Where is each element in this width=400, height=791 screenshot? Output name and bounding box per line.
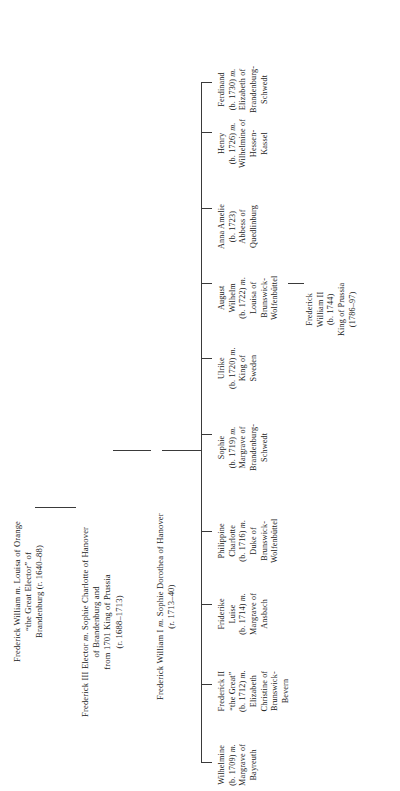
node-line: Margrave of <box>249 593 260 635</box>
node-line: Henry <box>217 119 228 168</box>
node-line: Friderike <box>217 593 228 635</box>
node-line: (b. 1709) m. <box>228 744 239 786</box>
branch-tick-ferdinand <box>201 82 212 83</box>
node-line: Louisa of <box>249 276 260 320</box>
branch-tick-august-wilhelm <box>201 283 212 284</box>
connector-august-wilhelm-child <box>288 283 304 284</box>
node-line: Frederick II <box>217 670 228 712</box>
node-line: Margrave of <box>238 744 249 786</box>
node-ulrike: Ulrike(b. 1720) m.King ofSweden <box>217 347 260 389</box>
node-line: Brunswick- <box>260 276 271 320</box>
node-line: (r. 1688–1713) <box>114 527 125 717</box>
branch-tick-henry <box>201 132 212 133</box>
node-line: Wilhelmine <box>217 744 228 786</box>
node-frederick-william-i: Frederick William I m. Sophie Dorothea o… <box>155 513 177 700</box>
sibling-bus <box>201 82 202 762</box>
branch-tick-wilhelmine <box>201 762 212 763</box>
branch-tick-frederick-ii <box>201 684 212 685</box>
genealogy-chart: Frederick William m. Louisa of Orange“th… <box>0 0 400 791</box>
node-line: Brandenburg- <box>249 66 260 113</box>
node-line: Sweden <box>249 347 260 389</box>
node-line: (b. 1726) m. <box>228 119 239 168</box>
node-line: August <box>217 276 228 320</box>
node-line: Frederick William I m. Sophie Dorothea o… <box>155 513 166 700</box>
node-line: William II <box>316 283 327 336</box>
node-line: (b. 1719) m. <box>228 424 239 471</box>
node-henry: Henry(b. 1726) m.Wilhelmine ofHessen-Kas… <box>217 119 270 168</box>
node-wilhelmine: Wilhelmine(b. 1709) m.Margrave ofBayreut… <box>217 744 260 786</box>
node-line: of Brandenburg and <box>91 527 102 717</box>
node-ferdinand: Ferdinand(b. 1730) m.Elizabeth ofBranden… <box>217 66 270 113</box>
node-line: (b. 1723) <box>228 204 239 249</box>
branch-tick-ulrike <box>201 358 212 359</box>
connector-gen3-bus <box>162 450 202 451</box>
node-line: (r. 1713–40) <box>166 513 177 700</box>
node-line: (b. 1722) m. <box>238 276 249 320</box>
node-line: “the Great” <box>228 670 239 712</box>
node-line: Hessen- <box>249 119 260 168</box>
node-line: Christine of <box>260 670 271 712</box>
node-anna-amelie: Anna Amelie(b. 1723)Abbess ofQuedlinburg <box>217 204 260 249</box>
node-line: Sophie <box>217 424 228 471</box>
node-line: Brunswick- <box>270 670 281 712</box>
node-frederick-william-great-elector: Frederick William m. Louisa of Orange“th… <box>12 521 46 662</box>
node-line: Schwedt <box>260 66 271 113</box>
node-line: Bayreuth <box>249 744 260 786</box>
node-august-wilhelm: AugustWilhelm(b. 1722) m.Louisa ofBrunsw… <box>217 276 281 320</box>
node-line: Charlotte <box>228 519 239 563</box>
node-line: Wolfenbüttel <box>270 276 281 320</box>
node-line: Duke of <box>249 519 260 563</box>
branch-tick-friderike-luise <box>201 604 212 605</box>
node-line: Margrave of <box>238 424 249 471</box>
node-line: Brandenburg (r. 1640–88) <box>34 521 45 662</box>
node-frederick-ii: Frederick II“the Great”(b. 1712) m.Eliza… <box>217 670 292 712</box>
node-line: Luise <box>228 593 239 635</box>
node-line: (1786–97) <box>348 283 359 336</box>
node-line: Elizabeth <box>249 670 260 712</box>
node-line: (b. 1714) m. <box>238 593 249 635</box>
node-line: Ulrike <box>217 347 228 389</box>
branch-tick-philippine-charlotte <box>201 531 212 532</box>
branch-tick-sophie <box>201 434 212 435</box>
node-line: Philippine <box>217 519 228 563</box>
node-line: (b. 1720) m. <box>228 347 239 389</box>
node-friderike-luise: FriderikeLuise(b. 1714) m.Margrave ofAns… <box>217 593 270 635</box>
node-line: Wilhelm <box>228 276 239 320</box>
node-line: (b. 1730) m. <box>228 66 239 113</box>
connector-gen2-gen3 <box>113 450 151 451</box>
node-line: Frederick III Elector m. Sophie Charlott… <box>80 527 91 717</box>
node-frederick-iii-elector: Frederick III Elector m. Sophie Charlott… <box>80 527 125 717</box>
node-line: Quedlinburg <box>249 204 260 249</box>
node-line: Abbess of <box>238 204 249 249</box>
node-line: Frederick <box>305 283 316 336</box>
branch-tick-anna-amelie <box>201 208 212 209</box>
node-line: Frederick William m. Louisa of Orange <box>12 521 23 662</box>
node-line: Brunswick- <box>260 519 271 563</box>
node-line: (b. 1744) <box>326 283 337 336</box>
node-line: Wilhelmine of <box>238 119 249 168</box>
node-line: King of <box>238 347 249 389</box>
node-line: Schwedt <box>260 424 271 471</box>
connector-gen1-gen2 <box>35 507 76 508</box>
node-frederick-william-ii: FrederickWilliam II(b. 1744)King of Prus… <box>305 283 358 336</box>
node-sophie: Sophie(b. 1719) m.Margrave ofBrandenburg… <box>217 424 270 471</box>
node-line: “the Great Elector” of <box>23 521 34 662</box>
node-line: Ansbach <box>260 593 271 635</box>
node-line: (b. 1716) m. <box>238 519 249 563</box>
node-line: Bevern <box>281 670 292 712</box>
node-philippine-charlotte: PhilippineCharlotte(b. 1716) m.Duke ofBr… <box>217 519 281 563</box>
node-line: Anna Amelie <box>217 204 228 249</box>
node-line: Brandenburg- <box>249 424 260 471</box>
node-line: King of Prussia <box>337 283 348 336</box>
node-line: Elizabeth of <box>238 66 249 113</box>
node-line: from 1701 King of Prussia <box>102 527 113 717</box>
node-line: Kassel <box>260 119 271 168</box>
node-line: (b. 1712) m. <box>238 670 249 712</box>
node-line: Wolfenbüttel <box>270 519 281 563</box>
node-line: Ferdinand <box>217 66 228 113</box>
